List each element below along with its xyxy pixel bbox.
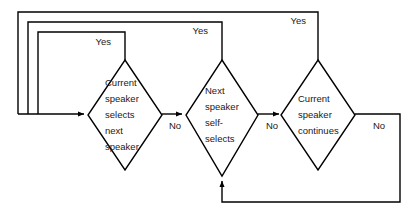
node-3-line-3: continues <box>298 125 339 136</box>
node-2-line-4: selects <box>205 133 235 144</box>
flowchart-node-current-speaker-continues: Current speaker continues <box>281 60 355 170</box>
node-3-line-2: speaker <box>298 109 332 120</box>
edge-label-no-1: No <box>169 120 181 131</box>
edge-label-no-2: No <box>266 120 278 131</box>
flowchart-node-current-speaker-selects: Current speaker selects next speaker <box>88 60 162 170</box>
node-1-line-1: Current <box>105 77 137 88</box>
node-2-line-3: self- <box>205 117 223 128</box>
node-1-line-2: speaker <box>105 93 139 104</box>
node-1-line-3: selects <box>105 109 135 120</box>
node-2-line-2: speaker <box>205 101 239 112</box>
edge-yes-node3-loop <box>18 12 318 114</box>
edge-label-yes-2: Yes <box>193 25 209 36</box>
node-3-line-1: Current <box>298 93 330 104</box>
node-1-line-5: speaker <box>105 141 139 152</box>
flowchart-diagram: Current speaker selects next speaker Nex… <box>0 0 418 220</box>
node-1-line-4: next <box>105 125 123 136</box>
edge-label-no-3: No <box>373 120 385 131</box>
edge-label-yes-1: Yes <box>96 36 112 47</box>
node-2-line-1: Next <box>205 85 225 96</box>
flowchart-canvas: Current speaker selects next speaker Nex… <box>0 0 418 220</box>
edge-label-yes-3: Yes <box>291 15 307 26</box>
flowchart-node-next-speaker-self-selects: Next speaker self- selects <box>186 60 258 176</box>
